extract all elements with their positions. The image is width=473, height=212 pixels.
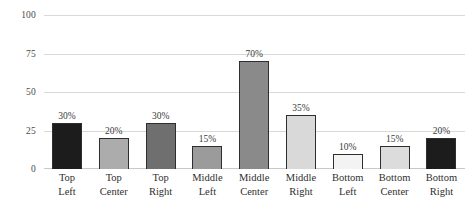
- x-tick-label-line-1: Middle: [184, 171, 231, 185]
- x-tick-label-middle-right: Middle Right: [277, 171, 324, 198]
- plot-area: 30% 20% 30% 15% 70%: [44, 15, 465, 169]
- y-tick-label-100: 100: [21, 11, 36, 21]
- bar-group-middle-center[interactable]: 70%: [239, 15, 269, 169]
- x-tick-label-line-1: Top: [137, 171, 184, 185]
- x-tick-label-line-1: Bottom: [418, 171, 465, 185]
- x-tick-label-line-1: Bottom: [371, 171, 418, 185]
- bar-group-middle-right[interactable]: 35%: [286, 15, 316, 169]
- bar-group-bottom-right[interactable]: 20%: [426, 15, 456, 169]
- y-tick-label-75: 75: [26, 50, 36, 60]
- x-tick-label-line-1: Middle: [231, 171, 278, 185]
- x-tick-label-bottom-center: Bottom Center: [371, 171, 418, 198]
- x-tick-label-top-center: Top Center: [90, 171, 137, 198]
- bar-middle-left[interactable]: [192, 146, 222, 169]
- bar-label-top-right: 30%: [152, 111, 169, 121]
- x-tick-label-line-1: Top: [90, 171, 137, 185]
- x-tick-label-line-2: Center: [90, 185, 137, 199]
- bar-bottom-right[interactable]: [426, 138, 456, 169]
- bar-group-top-center[interactable]: 20%: [99, 15, 129, 169]
- bar-top-right[interactable]: [146, 123, 176, 169]
- bar-group-bottom-center[interactable]: 15%: [380, 15, 410, 169]
- y-tick-label-0: 0: [31, 165, 36, 175]
- bar-group-bottom-left[interactable]: 10%: [333, 15, 363, 169]
- bar-label-middle-center: 70%: [245, 49, 262, 59]
- y-tick-label-50: 50: [26, 88, 36, 98]
- x-tick-label-top-right: Top Right: [137, 171, 184, 198]
- bar-label-middle-left: 15%: [199, 134, 216, 144]
- x-tick-label-line-1: Top: [43, 171, 90, 185]
- y-axis: 100 75 50 25 0: [0, 0, 40, 212]
- bar-label-middle-right: 35%: [292, 103, 309, 113]
- bar-label-top-center: 20%: [105, 126, 122, 136]
- x-tick-label-line-2: Right: [137, 185, 184, 199]
- x-tick-label-bottom-left: Bottom Left: [324, 171, 371, 198]
- bar-label-bottom-center: 15%: [386, 134, 403, 144]
- x-tick-label-middle-left: Middle Left: [184, 171, 231, 198]
- x-tick-label-line-1: Middle: [277, 171, 324, 185]
- x-tick-label-top-left: Top Left: [43, 171, 90, 198]
- x-axis: Top Left Top Center Top Right Middle Lef…: [44, 171, 465, 212]
- x-tick-label-middle-center: Middle Center: [231, 171, 278, 198]
- bar-middle-center[interactable]: [239, 61, 269, 169]
- bar-bottom-left[interactable]: [333, 154, 363, 169]
- bar-chart: 100 75 50 25 0 30% 20% 30%: [0, 0, 473, 212]
- x-tick-label-line-2: Left: [43, 185, 90, 199]
- bars-layer: 30% 20% 30% 15% 70%: [44, 15, 465, 169]
- bar-label-top-left: 30%: [58, 111, 75, 121]
- bar-group-middle-left[interactable]: 15%: [192, 15, 222, 169]
- x-tick-label-bottom-right: Bottom Right: [418, 171, 465, 198]
- x-tick-label-line-2: Left: [184, 185, 231, 199]
- bar-bottom-center[interactable]: [380, 146, 410, 169]
- bar-label-bottom-left: 10%: [339, 142, 356, 152]
- bar-group-top-left[interactable]: 30%: [52, 15, 82, 169]
- bar-middle-right[interactable]: [286, 115, 316, 169]
- bar-top-left[interactable]: [52, 123, 82, 169]
- bar-group-top-right[interactable]: 30%: [146, 15, 176, 169]
- x-tick-label-line-2: Center: [371, 185, 418, 199]
- bar-top-center[interactable]: [99, 138, 129, 169]
- y-tick-label-25: 25: [26, 127, 36, 137]
- x-tick-label-line-2: Right: [418, 185, 465, 199]
- bar-label-bottom-right: 20%: [433, 126, 450, 136]
- x-tick-label-line-2: Left: [324, 185, 371, 199]
- x-tick-label-line-2: Center: [231, 185, 278, 199]
- x-tick-label-line-1: Bottom: [324, 171, 371, 185]
- x-tick-label-line-2: Right: [277, 185, 324, 199]
